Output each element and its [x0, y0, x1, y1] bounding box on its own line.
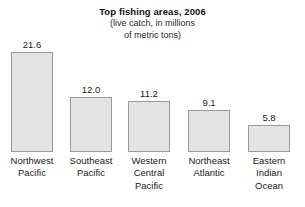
bar-chart: Top fishing areas, 2006 (live catch, in …	[0, 0, 305, 207]
bar-label-4-line-1: Northeast	[178, 155, 240, 167]
bar-label-1: Northwest Pacific	[1, 155, 63, 180]
bar-value-5: 5.8	[248, 112, 290, 123]
bar-label-5-line-3: Ocean	[238, 180, 300, 192]
bar-label-2: Southeast Pacific	[60, 155, 122, 180]
bar-5	[248, 125, 290, 152]
bar-3	[128, 101, 170, 152]
bar-label-3-line-1: Western	[118, 155, 180, 167]
bar-value-3: 11.2	[128, 88, 170, 99]
bar-label-1-line-2: Pacific	[1, 167, 63, 179]
bar-value-4: 9.1	[188, 97, 230, 108]
bar-label-4: Northeast Atlantic	[178, 155, 240, 180]
bar-label-3: Western Central Pacific	[118, 155, 180, 192]
bar-label-4-line-2: Atlantic	[178, 167, 240, 179]
bar-label-3-line-2: Central	[118, 167, 180, 179]
bar-value-1: 21.6	[11, 39, 53, 50]
bar-label-5: Eastern Indian Ocean	[238, 155, 300, 192]
bar-2	[70, 97, 112, 152]
bar-label-2-line-1: Southeast	[60, 155, 122, 167]
bar-label-1-line-1: Northwest	[1, 155, 63, 167]
bar-label-5-line-1: Eastern	[238, 155, 300, 167]
bar-label-5-line-2: Indian	[238, 167, 300, 179]
bar-value-2: 12.0	[70, 84, 112, 95]
bar-1	[11, 52, 53, 152]
plot-area: 21.6 Northwest Pacific 12.0 Southeast Pa…	[0, 0, 305, 207]
bar-label-3-line-3: Pacific	[118, 180, 180, 192]
bar-label-2-line-2: Pacific	[60, 167, 122, 179]
bar-4	[188, 110, 230, 152]
